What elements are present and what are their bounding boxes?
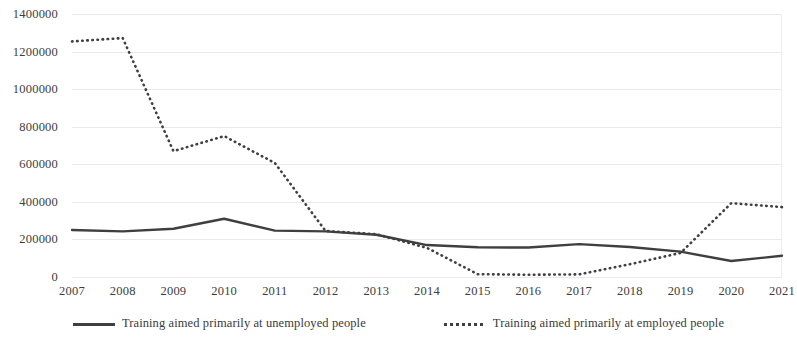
x-axis-label: 2020: [718, 284, 744, 299]
x-axis-label: 2009: [161, 284, 187, 299]
y-axis-label: 1000000: [13, 82, 58, 97]
solid-line-swatch: [73, 319, 115, 329]
x-axis-label: 2019: [668, 284, 694, 299]
x-axis-label: 2011: [262, 284, 287, 299]
x-axis-label: 2013: [363, 284, 389, 299]
series-line-employed: [72, 38, 782, 275]
y-axis-label: 1400000: [13, 7, 58, 22]
x-axis-label: 2010: [211, 284, 237, 299]
x-axis-label: 2021: [769, 284, 795, 299]
legend-label-unemployed: Training aimed primarily at unemployed p…: [122, 316, 366, 331]
y-axis-label: 0: [52, 270, 58, 285]
legend-label-employed: Training aimed primarily at employed peo…: [493, 316, 724, 331]
y-axis-label: 400000: [19, 194, 58, 209]
x-axis-tick-labels: 2007200820092010201120122013201420152016…: [72, 284, 782, 304]
series-layer: [72, 14, 782, 277]
y-axis-label: 800000: [19, 119, 58, 134]
y-axis-tick-labels: 0200000400000600000800000100000012000001…: [0, 0, 66, 344]
plot-area: [72, 14, 782, 277]
chart-legend: Training aimed primarily at unemployed p…: [0, 316, 797, 331]
y-axis-label: 200000: [19, 232, 58, 247]
y-axis-label: 1200000: [13, 44, 58, 59]
x-axis-label: 2015: [465, 284, 491, 299]
legend-item-unemployed: Training aimed primarily at unemployed p…: [73, 316, 366, 331]
x-axis-label: 2017: [566, 284, 592, 299]
x-axis-label: 2007: [59, 284, 85, 299]
legend-item-employed: Training aimed primarily at employed peo…: [444, 316, 724, 331]
x-axis-label: 2012: [313, 284, 339, 299]
line-chart: 0200000400000600000800000100000012000001…: [0, 0, 797, 344]
dotted-line-swatch: [444, 319, 486, 329]
gridline: [72, 277, 782, 278]
x-axis-label: 2018: [617, 284, 643, 299]
x-axis-label: 2008: [110, 284, 136, 299]
y-axis-label: 600000: [19, 157, 58, 172]
x-axis-label: 2014: [414, 284, 440, 299]
x-axis-label: 2016: [516, 284, 542, 299]
